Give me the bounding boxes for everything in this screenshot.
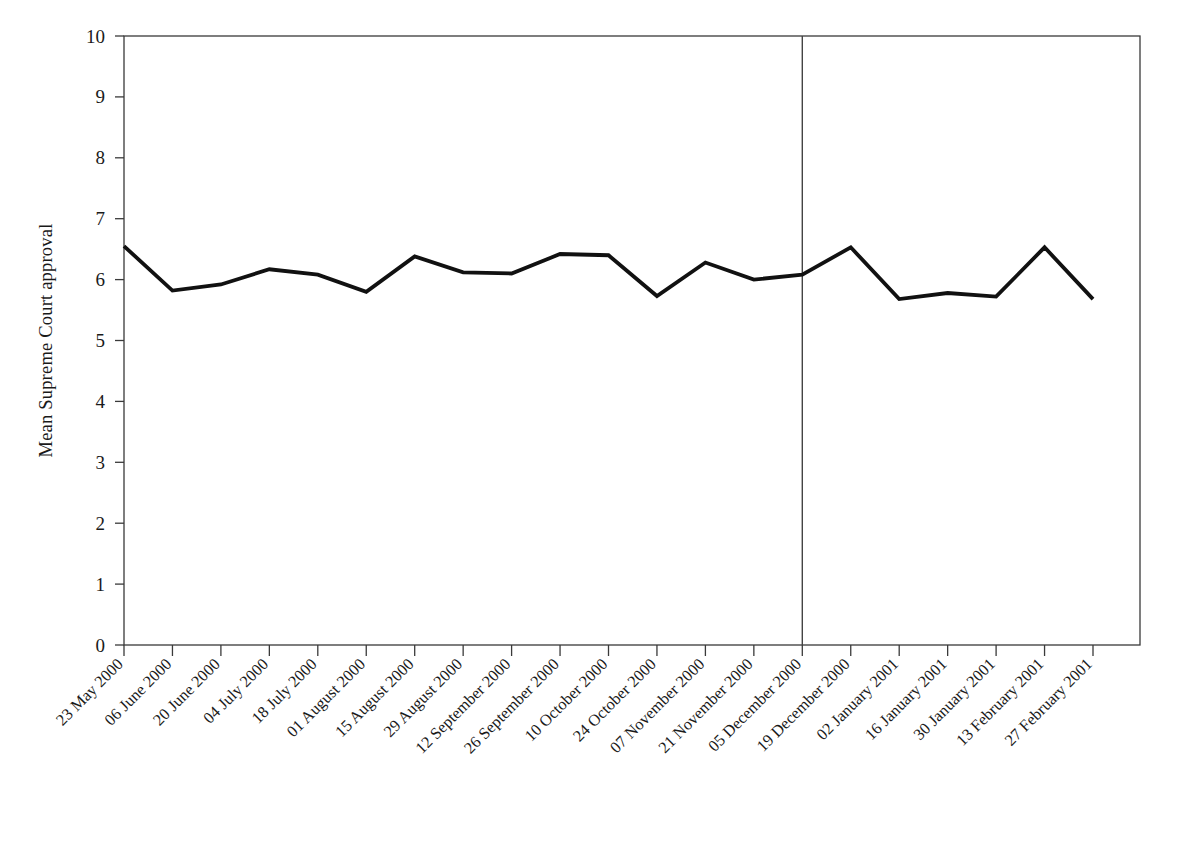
x-tick-label: 13 February 2001	[952, 654, 1047, 749]
x-tick-label: 24 October 2000	[569, 654, 660, 745]
line-chart: 012345678910 23 May 200006 June 200020 J…	[0, 0, 1178, 849]
y-tick-label: 4	[96, 391, 106, 412]
x-axis-ticks	[124, 645, 1093, 656]
y-tick-label: 7	[96, 208, 106, 229]
data-series-line	[124, 246, 1093, 299]
y-tick-label: 8	[96, 147, 106, 168]
y-tick-label: 1	[96, 574, 106, 595]
plot-frame	[124, 36, 1140, 645]
y-tick-label: 5	[96, 330, 106, 351]
x-tick-label: 10 October 2000	[521, 654, 612, 745]
y-tick-label: 9	[96, 86, 106, 107]
chart-figure: 012345678910 23 May 200006 June 200020 J…	[0, 0, 1178, 849]
y-tick-label: 0	[96, 635, 106, 656]
y-tick-label: 10	[86, 26, 105, 47]
y-tick-label: 3	[96, 452, 106, 473]
x-axis-tick-labels: 23 May 200006 June 200020 June 200004 Ju…	[52, 654, 1096, 757]
x-tick-label: 27 February 2001	[1001, 654, 1096, 749]
y-tick-label: 2	[96, 513, 106, 534]
y-axis-ticks: 012345678910	[86, 26, 124, 656]
y-tick-label: 6	[96, 269, 106, 290]
